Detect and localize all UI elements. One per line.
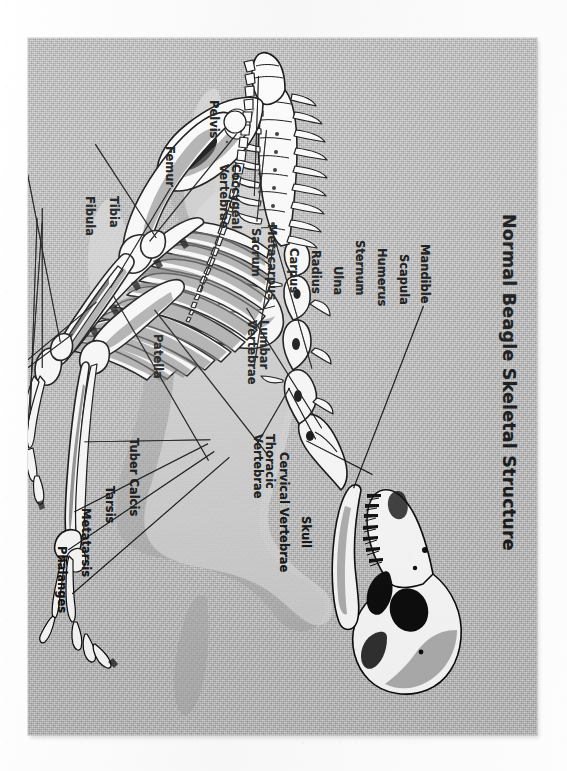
label-cervical-vertebrae: Cervical Vertebrae [278, 452, 290, 572]
label-tibia: Tibia [108, 196, 120, 228]
scanned-page: Normal Beagle Skeletal Structure [0, 0, 567, 771]
skeleton-drawing [28, 38, 537, 735]
label-humerus: Humerus [376, 248, 388, 306]
fore-phalanges [40, 616, 118, 668]
mandible-bone [332, 485, 361, 630]
label-sternum: Sternum [354, 240, 366, 296]
illustration-panel: Normal Beagle Skeletal Structure [28, 38, 537, 735]
skull-group [332, 485, 461, 694]
spinous-processes [287, 94, 327, 248]
label-sacrum: Sacrum [250, 228, 262, 277]
label-scapula: Scapula [398, 254, 410, 305]
rotated-illustration-stage: Normal Beagle Skeletal Structure [28, 38, 537, 735]
label-phalanges: Phalanges [56, 546, 68, 613]
label-thoracic-line2: Vertebrae [251, 434, 265, 499]
label-mandible: Mandible [419, 244, 431, 304]
tail-chain [237, 38, 255, 56]
label-radius: Radius [310, 250, 322, 294]
label-skull: Skull [300, 516, 312, 548]
beagle-skeleton-artwork [28, 38, 537, 735]
label-fibula: Fibula [84, 196, 96, 236]
page-title: Normal Beagle Skeletal Structure [499, 214, 519, 551]
label-lumbar-line2: Vertebrae [245, 320, 259, 385]
label-femur: Femur [164, 146, 176, 187]
label-coccygeal-vertebrae: Coccygeal Vertebrae [218, 164, 241, 230]
label-tarsis: Tarsis [104, 486, 116, 523]
hind-phalanges [28, 448, 45, 510]
label-patella: Patella [152, 334, 164, 379]
label-carpus: Carpus [288, 248, 300, 293]
label-lumbar-vertebrae: Lumbar Vertebrae [246, 320, 269, 384]
label-coccygeal-line2: Vertebrae [217, 164, 231, 229]
label-tuber-calcis: Tuber Calcis [128, 438, 140, 516]
label-thoracic-vertebrae: Thoracic Vertebrae [252, 434, 275, 498]
label-ulna: Ulna [332, 266, 344, 295]
label-metacarpus: Metacarpus [266, 224, 278, 300]
label-pelvis: Pelvis [208, 100, 220, 138]
label-metatarsis: Metatarsis [80, 508, 92, 577]
